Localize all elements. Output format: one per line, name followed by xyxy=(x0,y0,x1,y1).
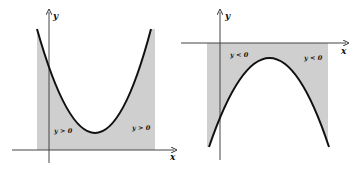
left-y-axis-label: y xyxy=(52,11,59,21)
right-x-axis-label: x xyxy=(340,46,347,56)
right-y-axis-label: y xyxy=(224,11,231,21)
right-graph: y x y < 0 y < 0 xyxy=(181,11,347,160)
right-region-label-right: y < 0 xyxy=(303,54,323,62)
right-region-label-left: y < 0 xyxy=(229,51,249,59)
left-region-label-left: y > 0 xyxy=(53,127,73,135)
left-region-label-right: y > 0 xyxy=(131,124,151,132)
left-graph: y x y > 0 y > 0 xyxy=(12,11,176,163)
left-x-axis-label: x xyxy=(169,152,176,162)
figure-canvas: y x y > 0 y > 0 y x y < 0 y < 0 xyxy=(0,0,355,173)
